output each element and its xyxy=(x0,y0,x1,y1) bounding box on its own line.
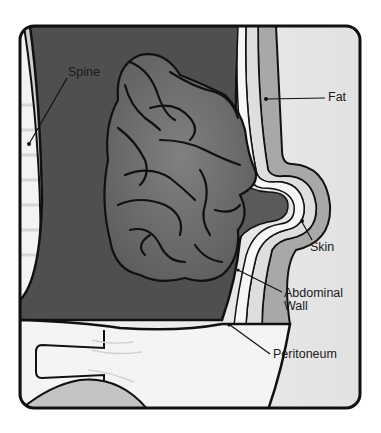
label-skin: Skin xyxy=(310,241,334,254)
label-peritoneum: Peritoneum xyxy=(273,348,337,361)
label-fat: Fat xyxy=(328,91,346,104)
label-abdominal-wall-line2: Wall xyxy=(284,300,308,313)
hernia-diagram xyxy=(0,0,381,433)
label-spine: Spine xyxy=(68,66,100,79)
